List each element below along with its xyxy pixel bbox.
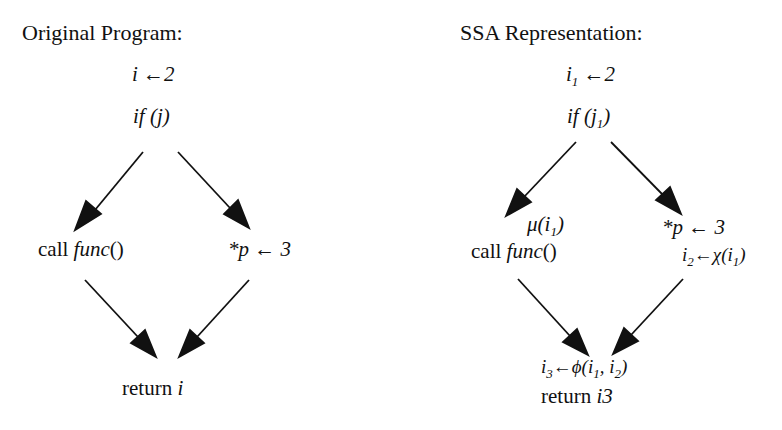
call-keyword: call	[471, 239, 507, 263]
right-node-ret: return i3	[541, 386, 613, 407]
chi-post: )	[739, 244, 745, 265]
value: 2	[164, 62, 175, 86]
phi-mid: , i	[600, 356, 615, 377]
phi-op: ←ϕ(i	[553, 356, 593, 377]
left-title: Original Program:	[22, 22, 183, 44]
deref-p: *p	[662, 215, 683, 239]
assign-arrow: ←	[578, 62, 604, 86]
edge-call-to-phi	[518, 279, 570, 336]
var-i: i	[177, 376, 183, 400]
var-i3: i3	[596, 384, 612, 408]
left-node-call: call func()	[38, 239, 124, 260]
call-parens: ()	[543, 239, 557, 263]
right-title: SSA Representation:	[460, 22, 643, 44]
edge-cond-to-store	[611, 142, 663, 195]
return-keyword: return	[541, 384, 596, 408]
right-node-chi: i2←χ(i1)	[682, 245, 746, 268]
left-node-cond: if (j)	[133, 106, 170, 127]
phi-post: )	[621, 356, 627, 377]
right-node-call: call func()	[471, 241, 557, 262]
chi-op: ←χ(i	[694, 244, 733, 265]
value: 3	[281, 237, 292, 261]
right-node-assign: i1 ←2	[566, 64, 615, 88]
edge-cond-to-call	[524, 142, 576, 197]
call-parens: ()	[110, 237, 124, 261]
value: 2	[605, 62, 616, 86]
cond-pre: if (j	[567, 104, 597, 128]
value: 3	[715, 215, 726, 239]
func-name: func	[74, 237, 110, 261]
edge-store-to-ret	[197, 280, 249, 337]
func-name: func	[507, 239, 543, 263]
edge-cond-to-call	[95, 152, 143, 210]
assign-arrow: ←	[249, 237, 281, 261]
edge-store-to-phi	[631, 279, 683, 335]
right-node-cond: if (j1)	[567, 106, 610, 130]
right-node-store: *p ← 3	[662, 217, 725, 238]
deref-p: *p	[228, 237, 249, 261]
left-node-ret: return i	[122, 378, 183, 399]
arrowhead-icon	[224, 200, 249, 228]
left-node-store: *p ← 3	[228, 239, 291, 260]
right-node-mu: μ(i1)	[527, 214, 564, 238]
assign-arrow: ←	[683, 215, 715, 239]
edge-call-to-ret	[85, 280, 138, 337]
cond-post: )	[603, 104, 610, 128]
right-node-phi: i3←ϕ(i1, i2)	[541, 357, 627, 380]
assign-arrow: ←	[138, 62, 164, 86]
arrowhead-icon	[75, 201, 101, 230]
call-keyword: call	[38, 237, 74, 261]
mu-pre: μ(i	[527, 212, 550, 236]
mu-post: )	[557, 212, 564, 236]
edge-cond-to-store	[178, 152, 230, 208]
left-node-assign: i ←2	[132, 64, 175, 85]
return-keyword: return	[122, 376, 177, 400]
